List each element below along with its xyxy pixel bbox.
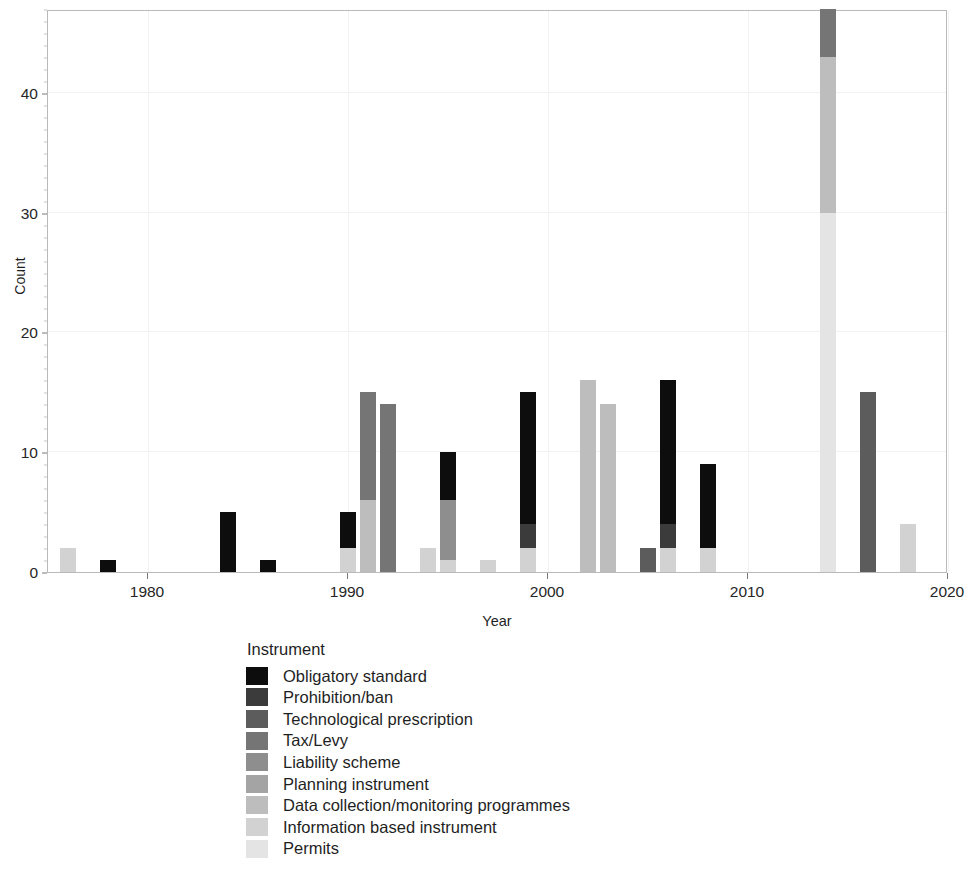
bar-segment <box>100 560 116 572</box>
legend-item-7: Information based instrument <box>246 816 766 838</box>
legend-item-2: Technological prescription <box>246 708 766 730</box>
legend-swatch-icon <box>246 710 268 728</box>
legend-swatch-icon <box>246 753 268 771</box>
legend-swatch-icon <box>246 818 268 836</box>
legend-label: Prohibition/ban <box>283 689 393 706</box>
bar-2014 <box>820 9 836 572</box>
legend-label: Planning instrument <box>283 776 429 793</box>
legend-item-6: Data collection/monitoring programmes <box>246 795 766 817</box>
bar-segment <box>60 548 76 572</box>
bar-segment <box>700 548 716 572</box>
bar-2002 <box>580 380 596 572</box>
x-tick-mark <box>347 573 348 579</box>
bar-1997 <box>480 560 496 572</box>
legend-item-8: Permits <box>246 838 766 860</box>
legend-item-5: Planning instrument <box>246 773 766 795</box>
x-axis: 19801990200020102020 <box>47 573 947 609</box>
bar-segment <box>580 380 596 572</box>
bar-2008 <box>700 464 716 572</box>
y-tick-label: 10 <box>21 444 38 462</box>
bar-segment <box>520 392 536 524</box>
legend-label: Data collection/monitoring programmes <box>283 797 570 814</box>
legend-swatch-icon <box>246 840 268 858</box>
bar-1994 <box>420 548 436 572</box>
bar-1986 <box>260 560 276 572</box>
bars-layer <box>48 11 946 572</box>
x-tick-label: 1990 <box>330 583 364 601</box>
bar-segment <box>260 560 276 572</box>
bar-2005 <box>640 548 656 572</box>
x-tick-label: 2020 <box>930 583 964 601</box>
bar-1995 <box>440 452 456 572</box>
legend-item-1: Prohibition/ban <box>246 687 766 709</box>
legend-label: Tax/Levy <box>283 732 348 749</box>
bar-2003 <box>600 404 616 572</box>
y-tick-label: 20 <box>21 324 38 342</box>
x-axis-title: Year <box>47 613 947 629</box>
y-tick-label: 30 <box>21 205 38 223</box>
legend-title: Instrument <box>246 640 766 659</box>
bar-1990 <box>340 512 356 572</box>
plot-area <box>47 10 947 573</box>
legend-swatch-icon <box>246 796 268 814</box>
bar-segment <box>820 213 836 572</box>
bar-segment <box>220 512 236 572</box>
bar-1978 <box>100 560 116 572</box>
bar-2016 <box>860 392 876 572</box>
bar-segment <box>700 464 716 548</box>
x-tick-label: 2010 <box>730 583 764 601</box>
bar-segment <box>360 392 376 500</box>
legend-item-4: Liability scheme <box>246 751 766 773</box>
legend-swatch-icon <box>246 667 268 685</box>
legend: Instrument Obligatory standardProhibitio… <box>246 640 766 859</box>
bar-segment <box>440 560 456 572</box>
bar-2018 <box>900 524 916 572</box>
bar-segment <box>480 560 496 572</box>
y-tick-label: 0 <box>29 564 38 582</box>
x-tick-mark <box>947 573 948 579</box>
bar-segment <box>820 9 836 57</box>
y-axis-title: Count <box>12 226 28 326</box>
bar-segment <box>340 512 356 548</box>
x-tick-mark <box>547 573 548 579</box>
legend-label: Technological prescription <box>283 711 473 728</box>
bar-segment <box>520 524 536 548</box>
legend-label: Information based instrument <box>283 819 497 836</box>
legend-swatch-icon <box>246 688 268 706</box>
legend-label: Liability scheme <box>283 754 400 771</box>
legend-label: Permits <box>283 840 339 857</box>
bar-segment <box>660 524 676 548</box>
gridline-vertical <box>948 11 949 572</box>
bar-segment <box>340 548 356 572</box>
bar-1991 <box>360 392 376 572</box>
legend-swatch-icon <box>246 775 268 793</box>
x-tick-mark <box>747 573 748 579</box>
chart-figure: 010203040 Count 19801990200020102020 Yea… <box>0 0 969 889</box>
bar-segment <box>900 524 916 572</box>
bar-segment <box>820 57 836 213</box>
legend-label: Obligatory standard <box>283 668 427 685</box>
x-tick-label: 2000 <box>530 583 564 601</box>
x-tick-label: 1980 <box>130 583 164 601</box>
bar-segment <box>660 548 676 572</box>
bar-segment <box>440 500 456 560</box>
bar-1992 <box>380 404 396 572</box>
bar-segment <box>420 548 436 572</box>
bar-segment <box>440 452 456 500</box>
bar-segment <box>660 380 676 524</box>
legend-item-0: Obligatory standard <box>246 665 766 687</box>
legend-items: Obligatory standardProhibition/banTechno… <box>246 665 766 859</box>
bar-segment <box>600 404 616 572</box>
bar-1999 <box>520 392 536 572</box>
x-tick-mark <box>147 573 148 579</box>
bar-segment <box>360 500 376 572</box>
bar-1976 <box>60 548 76 572</box>
bar-1984 <box>220 512 236 572</box>
y-tick-label: 40 <box>21 85 38 103</box>
bar-segment <box>860 392 876 572</box>
bar-2006 <box>660 380 676 572</box>
bar-segment <box>380 404 396 572</box>
legend-item-3: Tax/Levy <box>246 730 766 752</box>
bar-segment <box>640 548 656 572</box>
legend-swatch-icon <box>246 732 268 750</box>
